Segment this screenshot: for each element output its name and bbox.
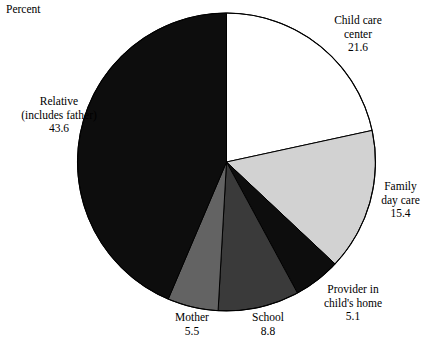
slice-label-line-1: Family — [374, 180, 427, 194]
slice-value: 8.8 — [237, 325, 299, 339]
slice-label-line-2: (includes father) — [4, 109, 114, 123]
slice-label-line-1: School — [237, 311, 299, 325]
slice-label-line-2: child's home — [300, 297, 406, 311]
slice-label-line-2: day care — [374, 194, 427, 208]
pie-chart-figure: Percent Child care center 21.6 Family da… — [0, 0, 427, 351]
slice-value: 43.6 — [4, 122, 114, 136]
slice-label-provider-in-childs-home: Provider in child's home 5.1 — [300, 283, 406, 324]
slice-label-line-1: Child care — [306, 14, 410, 28]
slice-label-relative-includes-father: Relative (includes father) 43.6 — [4, 95, 114, 136]
slice-label-line-2: center — [306, 28, 410, 42]
slice-label-child-care-center: Child care center 21.6 — [306, 14, 410, 55]
slice-label-line-1: Mother — [160, 311, 224, 325]
slice-label-line-1: Relative — [4, 95, 114, 109]
slice-label-line-1: Provider in — [300, 283, 406, 297]
slice-label-mother: Mother 5.5 — [160, 311, 224, 338]
slice-value: 5.5 — [160, 325, 224, 339]
slice-label-family-day-care: Family day care 15.4 — [374, 180, 427, 221]
slice-value: 5.1 — [300, 310, 406, 324]
slice-value: 15.4 — [374, 207, 427, 221]
slice-label-school: School 8.8 — [237, 311, 299, 338]
pie-slice-group — [78, 13, 376, 311]
slice-value: 21.6 — [306, 41, 410, 55]
